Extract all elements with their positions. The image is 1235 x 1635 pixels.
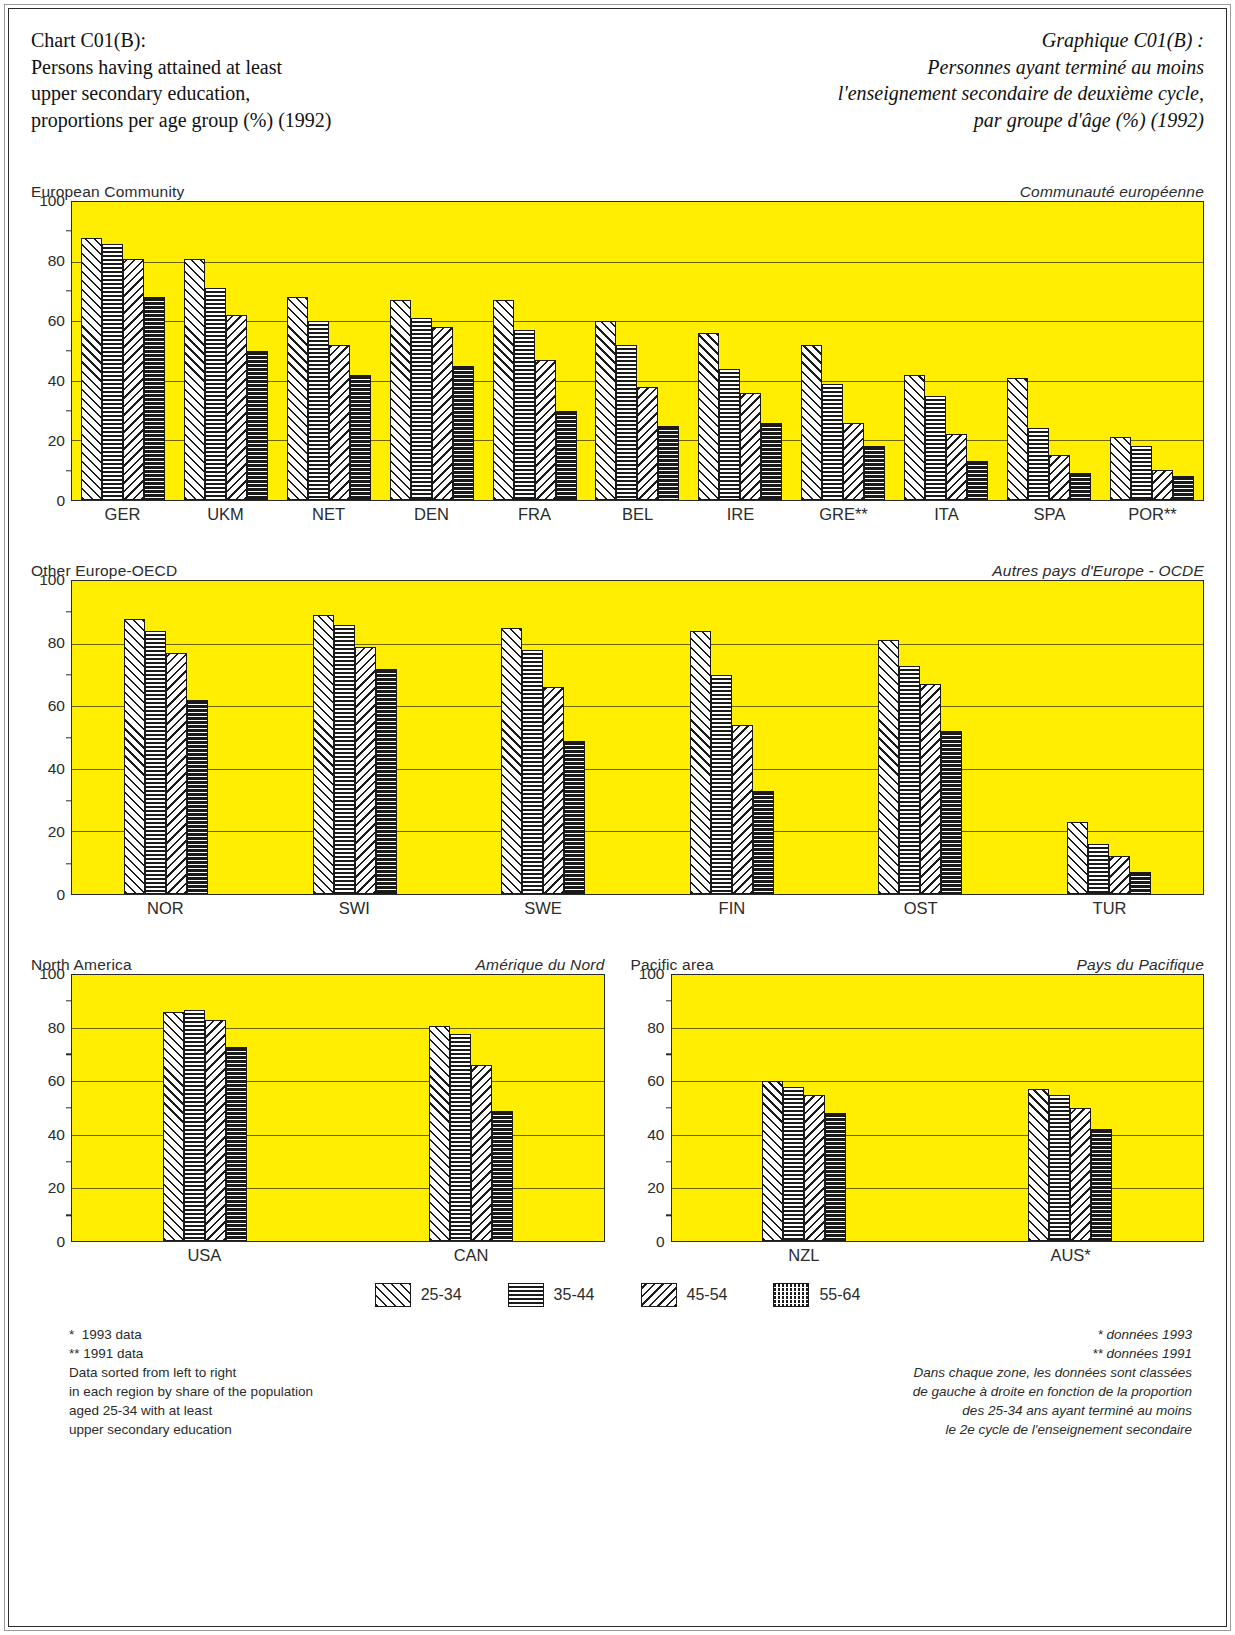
chart-titles: Chart C01(B): Persons having attained at… xyxy=(31,27,1204,133)
y-axis-tick-label: 60 xyxy=(48,1072,65,1090)
bar xyxy=(522,650,543,894)
legend-item: 35-44 xyxy=(508,1283,595,1307)
y-axis-tick-label: 100 xyxy=(39,965,65,983)
legend-swatch xyxy=(641,1283,677,1307)
bar-group xyxy=(261,581,450,894)
bar xyxy=(390,300,411,500)
footnote-line: Dans chaque zone, les données sont class… xyxy=(913,1363,1192,1382)
x-axis-tick-label: USA xyxy=(71,1246,338,1265)
bar xyxy=(1109,856,1130,894)
bar xyxy=(432,327,453,500)
chart-4-title-fr: Pays du Pacifique xyxy=(1077,956,1204,974)
x-axis-tick-label: NET xyxy=(277,505,380,524)
bar xyxy=(1007,378,1028,500)
y-axis-tick-label: 40 xyxy=(48,372,65,390)
bar-group xyxy=(72,202,175,500)
y-axis-tick-label: 0 xyxy=(56,492,65,510)
footnote-line: Data sorted from left to right xyxy=(69,1363,313,1382)
bar xyxy=(1070,473,1091,500)
bar xyxy=(946,434,967,500)
bar xyxy=(429,1026,450,1241)
chart-other-europe-oecd: Other Europe-OECD Autres pays d'Europe -… xyxy=(31,558,1204,918)
bar xyxy=(690,631,711,894)
x-axis-tick-label: CAN xyxy=(338,1246,605,1265)
title-en-line: Persons having attained at least xyxy=(31,54,331,81)
x-axis-tick-label: DEN xyxy=(380,505,483,524)
bar xyxy=(313,615,334,894)
bar-group xyxy=(997,202,1100,500)
bar xyxy=(1130,872,1151,894)
bar xyxy=(920,684,941,894)
bar xyxy=(637,387,658,500)
legend-item: 55-64 xyxy=(773,1283,860,1307)
y-axis-tick-label: 80 xyxy=(48,634,65,652)
x-axis-tick-label: TUR xyxy=(1015,899,1204,918)
bar-groups xyxy=(72,975,604,1241)
bar xyxy=(899,666,920,894)
bar-groups xyxy=(72,202,1203,500)
chart-1-title-fr: Communauté européenne xyxy=(1020,183,1204,201)
bar xyxy=(783,1087,804,1241)
legend-label: 35-44 xyxy=(554,1286,595,1304)
bar xyxy=(1173,476,1194,500)
footnotes-french: * données 1993 ** données 1991 Dans chaq… xyxy=(913,1325,1204,1439)
bar-group xyxy=(792,202,895,500)
bar xyxy=(184,1010,205,1241)
title-en-line: upper secondary education, xyxy=(31,80,331,107)
x-axis-tick-label: AUS* xyxy=(937,1246,1204,1265)
bar xyxy=(864,446,885,500)
bar-group xyxy=(72,975,338,1241)
y-axis-tick-label: 100 xyxy=(39,192,65,210)
y-axis-tick-label: 40 xyxy=(48,760,65,778)
bar xyxy=(102,244,123,500)
title-french: Graphique C01(B) : Personnes ayant termi… xyxy=(838,27,1204,133)
bar xyxy=(1028,428,1049,500)
bar-group xyxy=(380,202,483,500)
bar xyxy=(334,625,355,894)
bar xyxy=(843,423,864,500)
y-axis-tick-label: 100 xyxy=(39,571,65,589)
bar xyxy=(719,369,740,500)
bar xyxy=(732,725,753,894)
x-axis-tick-label: BEL xyxy=(586,505,689,524)
legend-item: 25-34 xyxy=(375,1283,462,1307)
x-axis-tick-label: NOR xyxy=(71,899,260,918)
footnote-line: in each region by share of the populatio… xyxy=(69,1382,313,1401)
bar-group xyxy=(672,975,938,1241)
bar xyxy=(658,426,679,501)
bar xyxy=(698,333,719,500)
x-axis-tick-label: SPA xyxy=(998,505,1101,524)
bar-group xyxy=(449,581,638,894)
footnote-line: de gauche à droite en fonction de la pro… xyxy=(913,1382,1192,1401)
chart-2-x-axis-labels: NORSWISWEFINOSTTUR xyxy=(71,899,1204,918)
chart-pacific-area: Pacific area Pays du Pacifique 100806040… xyxy=(631,952,1205,1265)
chart-3-headings: North America Amérique du Nord xyxy=(31,952,605,974)
chart-2-headings: Other Europe-OECD Autres pays d'Europe -… xyxy=(31,558,1204,580)
chart-2-y-axis: 100806040200 xyxy=(31,580,71,895)
footnotes-english: * 1993 data ** 1991 data Data sorted fro… xyxy=(31,1325,313,1439)
bar xyxy=(1110,437,1131,500)
bar xyxy=(1067,822,1088,894)
chart-3-title-fr: Amérique du Nord xyxy=(476,956,605,974)
y-axis-tick-label: 40 xyxy=(48,1126,65,1144)
title-en-line: Chart C01(B): xyxy=(31,27,331,54)
chart-1-x-axis-labels: GERUKMNETDENFRABELIREGRE**ITASPAPOR** xyxy=(71,505,1204,524)
footnotes: * 1993 data ** 1991 data Data sorted fro… xyxy=(31,1325,1204,1439)
bar xyxy=(825,1113,846,1241)
chart-1-plot-area xyxy=(71,201,1204,501)
bar xyxy=(205,1020,226,1241)
footnote-line: upper secondary education xyxy=(69,1420,313,1439)
chart-4-headings: Pacific area Pays du Pacifique xyxy=(631,952,1205,974)
footnote-line: le 2e cycle de l'enseignement secondaire xyxy=(913,1420,1192,1439)
y-axis-tick-label: 80 xyxy=(647,1019,664,1037)
chart-1-headings: European Community Communauté européenne xyxy=(31,179,1204,201)
bar xyxy=(740,393,761,500)
bar xyxy=(163,1012,184,1241)
bar xyxy=(492,1111,513,1241)
bar-group xyxy=(638,581,827,894)
bar xyxy=(761,423,782,500)
x-axis-tick-label: SWE xyxy=(449,899,638,918)
title-fr-line: Personnes ayant terminé au moins xyxy=(838,54,1204,81)
y-axis-tick-label: 80 xyxy=(48,252,65,270)
title-fr-line: Graphique C01(B) : xyxy=(838,27,1204,54)
